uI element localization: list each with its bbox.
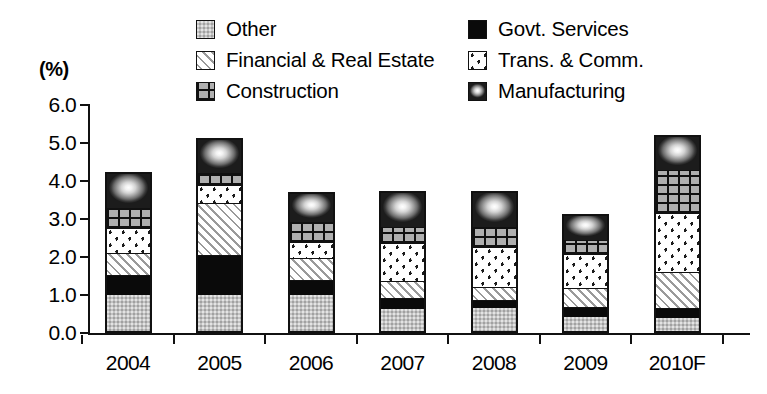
- bar-segment-trans-comm: [198, 185, 241, 203]
- bar-segment-manufacturing: [290, 192, 333, 221]
- bar-2005: [196, 138, 243, 333]
- bar-segment-construction: [656, 170, 699, 213]
- bar-segment-trans-comm: [473, 247, 516, 287]
- x-axis-tick: [356, 335, 358, 344]
- bar-segment-trans-comm: [107, 228, 150, 253]
- bar-segment-financial-real-estate: [656, 272, 699, 308]
- x-axis-tick-label: 2007: [358, 352, 448, 373]
- bar-segment-govt-services: [564, 307, 607, 317]
- bar-segment-manufacturing: [381, 191, 424, 226]
- x-axis-tick: [81, 335, 83, 344]
- bar-segment-other: [198, 295, 241, 331]
- bar-segment-construction: [473, 227, 516, 247]
- x-axis-tick-label: 2005: [175, 352, 265, 373]
- bar-2004: [105, 172, 152, 334]
- bar-segment-financial-real-estate: [381, 281, 424, 298]
- bar-segment-other: [473, 308, 516, 331]
- bar-group: [0, 0, 767, 333]
- bar-2008: [471, 191, 518, 333]
- bar-segment-trans-comm: [656, 213, 699, 272]
- bar-segment-other: [381, 309, 424, 331]
- bar-segment-financial-real-estate: [107, 253, 150, 275]
- bar-segment-financial-real-estate: [564, 288, 607, 306]
- bar-segment-govt-services: [107, 275, 150, 295]
- bar-segment-trans-comm: [290, 242, 333, 259]
- stacked-bar-chart: (%) 0.01.02.03.04.05.06.0 20042005200620…: [0, 0, 767, 394]
- x-axis-tick: [447, 335, 449, 344]
- x-axis-line: [88, 333, 750, 335]
- bar-segment-govt-services: [290, 280, 333, 295]
- bar-segment-trans-comm: [564, 254, 607, 289]
- bar-segment-manufacturing: [198, 138, 241, 174]
- bar-segment-manufacturing: [564, 214, 607, 241]
- bar-segment-construction: [198, 173, 241, 185]
- bar-2007: [379, 191, 426, 333]
- bar-segment-construction: [107, 208, 150, 229]
- bar-segment-govt-services: [473, 300, 516, 308]
- bar-segment-govt-services: [198, 255, 241, 295]
- bar-2009: [562, 214, 609, 333]
- x-axis-tick: [722, 335, 724, 344]
- x-axis-tick-label: 2009: [541, 352, 631, 373]
- bar-2010f: [654, 135, 701, 333]
- bar-segment-other: [107, 295, 150, 331]
- bar-segment-financial-real-estate: [473, 287, 516, 300]
- x-axis-tick: [173, 335, 175, 344]
- x-axis-tick: [630, 335, 632, 344]
- bar-segment-manufacturing: [107, 172, 150, 208]
- bar-segment-manufacturing: [656, 135, 699, 170]
- bar-segment-construction: [381, 227, 424, 244]
- x-axis-tick-label: 2006: [266, 352, 356, 373]
- x-axis-tick: [539, 335, 541, 344]
- bar-segment-manufacturing: [473, 191, 516, 226]
- bar-segment-financial-real-estate: [198, 203, 241, 255]
- bar-segment-financial-real-estate: [290, 258, 333, 280]
- bar-2006: [288, 192, 335, 333]
- bar-segment-other: [656, 318, 699, 331]
- x-axis-tick: [264, 335, 266, 344]
- bar-segment-govt-services: [381, 298, 424, 309]
- bar-segment-construction: [290, 222, 333, 242]
- bar-segment-other: [564, 317, 607, 331]
- x-axis-tick-label: 2008: [449, 352, 539, 373]
- bar-segment-other: [290, 295, 333, 331]
- bar-segment-govt-services: [656, 308, 699, 318]
- x-axis-tick-label: 2010F: [632, 352, 722, 373]
- x-axis-tick-label: 2004: [83, 352, 173, 373]
- bar-segment-construction: [564, 240, 607, 253]
- bar-segment-trans-comm: [381, 243, 424, 281]
